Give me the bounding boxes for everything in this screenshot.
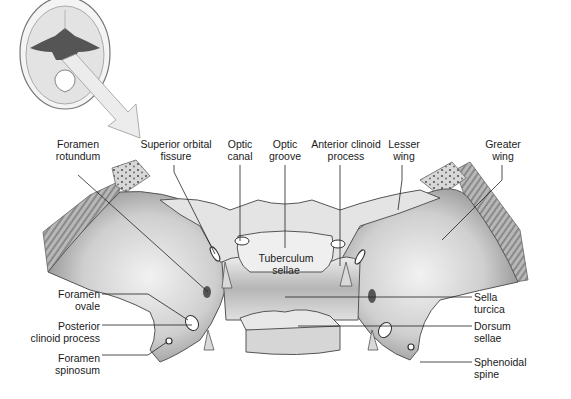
label-optic-canal: Optic canal: [222, 138, 258, 162]
label-posterior-clinoid-process: Posterior clinoid process: [0, 320, 100, 344]
label-optic-groove: Optic groove: [264, 138, 306, 162]
left-optic-canal: [235, 237, 249, 245]
label-tuberculum-sellae: Tuberculum sellae: [254, 252, 318, 276]
label-anterior-clinoid-process: Anterior clinoid process: [304, 138, 388, 162]
foramen-spinosum-left: [166, 338, 172, 344]
label-superior-orbital-fissure: Superior orbital fissure: [130, 138, 222, 162]
label-greater-wing: Greater wing: [480, 138, 526, 162]
label-lesser-wing: Lesser wing: [384, 138, 424, 162]
label-foramen-spinosum: Foramen spinosum: [0, 352, 100, 376]
label-sella-turcica: Sella turcica: [474, 291, 554, 315]
label-foramen-rotundum: Foramen rotundum: [40, 138, 116, 162]
label-dorsum-sellae: Dorsum sellae: [474, 320, 554, 344]
label-sphenoidal-spine: Sphenoidal spine: [474, 356, 554, 380]
sphenoid-diagram: Foramen rotundum Superior orbital fissur…: [0, 0, 571, 399]
right-optic-canal: [331, 240, 345, 248]
label-foramen-ovale: Foramen ovale: [0, 288, 100, 312]
foramen-rotundum-left: [203, 286, 211, 298]
